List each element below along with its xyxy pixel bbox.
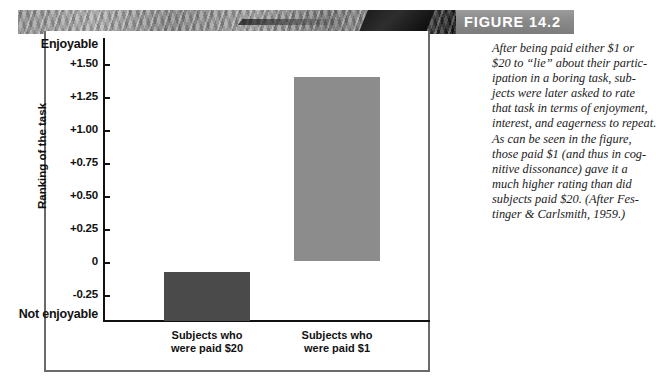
y-axis-tick-label-wrap: +0.25 [0, 222, 98, 236]
y-axis-tick [103, 196, 110, 198]
x-axis-line [103, 320, 430, 322]
figure-caption-line: much higher rating than did [492, 177, 642, 192]
bar [294, 77, 380, 261]
y-axis-tick [103, 64, 110, 66]
y-axis-tick-label-wrap: +0.50 [0, 189, 98, 203]
y-axis-line [103, 38, 105, 321]
y-axis-tick [103, 163, 110, 165]
figure-caption-line: tinger & Carlsmith, 1959.) [492, 207, 642, 222]
y-axis-bottom-label-wrap: Not enjoyable [0, 307, 98, 321]
figure-caption-line: that task in terms of enjoyment, [492, 101, 642, 116]
y-axis-top-label: Enjoyable [0, 37, 98, 51]
y-axis-tick-label: +0.50 [0, 189, 98, 201]
figure-caption-line: After being paid either $1 or [492, 41, 642, 56]
y-axis-bottom-label: Not enjoyable [0, 307, 98, 321]
figure-caption: After being paid either $1 or$20 to “lie… [492, 41, 642, 222]
y-axis-tick [103, 229, 110, 231]
x-axis-label: Subjects who were paid $20 [147, 329, 267, 355]
y-axis-tick-label: +1.50 [0, 57, 98, 69]
x-axis-label: Subjects who were paid $1 [277, 329, 397, 355]
figure-caption-line: interest, and eagerness to repeat. [492, 116, 642, 131]
y-axis-tick-label-wrap: +1.50 [0, 57, 98, 71]
figure-caption-line: subjects paid $20. (After Fes- [492, 192, 642, 207]
figure-caption-line: nitive dissonance) gave it a [492, 162, 642, 177]
y-axis-tick-label-wrap: +1.00 [0, 123, 98, 137]
y-axis-tick-label-wrap: 0 [0, 255, 98, 269]
y-axis-tick [103, 130, 110, 132]
y-axis-tick-label: 0 [0, 255, 98, 267]
y-axis-tick-label: +1.25 [0, 90, 98, 102]
y-axis-tick-label-wrap: -0.25 [0, 288, 98, 302]
y-axis-tick [103, 295, 110, 297]
figure-caption-line: jects were later asked to rate [492, 86, 642, 101]
figure-caption-line: $20 to “lie” about their partic- [492, 56, 642, 71]
y-axis-tick-label-wrap: +1.25 [0, 90, 98, 104]
y-axis-tick-label: +0.75 [0, 156, 98, 168]
figure-caption-line: those paid $1 (and thus in cog- [492, 147, 642, 162]
y-axis-tick-label: -0.25 [0, 288, 98, 300]
y-axis-tick [103, 97, 110, 99]
y-axis-top-label-wrap: Enjoyable [0, 37, 98, 51]
y-axis-tick [103, 262, 110, 264]
bar [164, 272, 250, 321]
figure-caption-line: ipation in a boring task, sub- [492, 71, 642, 86]
y-axis-tick-label: +0.25 [0, 222, 98, 234]
y-axis-tick-label: +1.00 [0, 123, 98, 135]
y-axis-tick-label-wrap: +0.75 [0, 156, 98, 170]
figure-caption-line: As can be seen in the figure, [492, 132, 642, 147]
